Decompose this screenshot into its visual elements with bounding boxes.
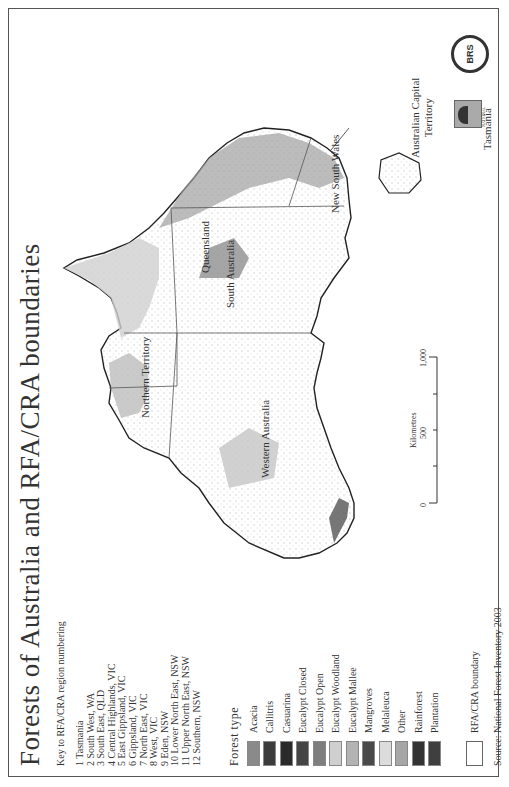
australia-map [49, 38, 449, 598]
forest-type-label: Eucalypt Mallee [347, 667, 358, 733]
label-act: Australian Capital Territory [409, 78, 435, 158]
forest-type-title: Forest type [227, 707, 242, 766]
map-title: Forests of Australia and RFA/CRA boundar… [15, 243, 46, 766]
forest-type-swatch [379, 741, 392, 766]
forest-type-swatch [263, 741, 276, 766]
region-key-item: 6 Gippsland, VIC [128, 655, 139, 766]
forest-type-legend-item: Callitris [263, 701, 277, 766]
forest-type-label: Casuarina [281, 693, 292, 733]
scale-bar: 0 500 1,000 Kilometres [419, 345, 449, 545]
forest-type-legend-item: Other [395, 710, 409, 766]
forest-type-label: Other [396, 710, 407, 733]
label-act-line2: Territory [422, 78, 435, 158]
forest-type-swatch [296, 741, 309, 766]
region-key-item: 11 Upper North East, NSW [181, 655, 192, 766]
forest-type-legend-item: Eucalypt Closed [296, 667, 310, 766]
forest-type-swatch [280, 741, 293, 766]
forest-type-swatch [395, 741, 408, 766]
forest-type-swatch [428, 741, 441, 766]
label-western-australia: Western Australia [259, 400, 271, 478]
forest-type-label: Melaleuca [380, 691, 391, 733]
forest-type-label: Callitris [264, 701, 275, 733]
map-frame: Forests of Australia and RFA/CRA boundar… [8, 8, 499, 777]
forest-type-legend-item: Eucalypt Mallee [345, 667, 359, 766]
forest-type-legend-item: Acacia [246, 705, 260, 766]
forest-type-legend-item: Mangroves [362, 688, 376, 766]
forest-type-swatch [329, 741, 342, 766]
forest-type-label: Eucalypt Closed [297, 667, 308, 733]
region-key-item: 1 Tasmania [75, 655, 86, 766]
forest-type-legend-item: Casuarina [279, 693, 293, 766]
brs-logo-text: BRS [465, 45, 475, 64]
forest-type-label: Eucalypt Open [314, 673, 325, 733]
map-canvas: Forests of Australia and RFA/CRA boundar… [9, 9, 500, 778]
region-key-title: Key to RFA/CRA region numbering [55, 621, 66, 766]
forest-type-legend-item: Eucalypt Woodland [329, 654, 343, 766]
forest-type-label: Mangroves [363, 688, 374, 733]
forest-type-swatch [247, 741, 260, 766]
label-queensland: Queensland [199, 221, 211, 273]
forest-type-label: Rainforest [413, 691, 424, 733]
forest-type-label: Plantation [429, 692, 440, 733]
scale-unit: Kilometres [409, 412, 418, 448]
national-logo-icon: NATIONAL [454, 100, 482, 128]
forest-type-legend-item: Rainforest [411, 691, 425, 766]
tasmania-outline [379, 153, 421, 193]
label-northern-territory: Northern Territory [139, 337, 151, 418]
rfa-boundary-legend: RFA/CRA boundary [467, 651, 481, 766]
rfa-boundary-label: RFA/CRA boundary [469, 651, 480, 733]
scale-tick-500: 500 [419, 427, 428, 439]
forest-type-swatch [362, 741, 375, 766]
forest-type-swatch [313, 741, 326, 766]
region-key-item: 12 Southern, NSW [192, 655, 203, 766]
forest-type-swatch [412, 741, 425, 766]
scale-tick-0: 0 [419, 503, 428, 507]
brs-logo-icon: BRS [451, 35, 489, 73]
scale-tick-1000: 1,000 [419, 349, 428, 367]
forest-type-label: Eucalypt Woodland [330, 654, 341, 733]
label-south-australia: South Australia [224, 240, 236, 308]
rfa-boundary-swatch [466, 741, 483, 766]
source-note: Source: National Forest Inventory 2003 [492, 607, 503, 766]
forest-type-legend-item: Melaleuca [378, 691, 392, 766]
forest-type-swatch [346, 741, 359, 766]
label-new-south-wales: New South Wales [329, 135, 341, 213]
label-act-line1: Australian Capital [409, 78, 422, 158]
forest-type-legend-item: Eucalypt Open [312, 673, 326, 766]
region-key-list: 1 Tasmania 2 South West, WA 3 South East… [75, 655, 202, 766]
forest-type-label: Acacia [248, 705, 259, 733]
forest-type-legend-item: Plantation [428, 692, 442, 766]
